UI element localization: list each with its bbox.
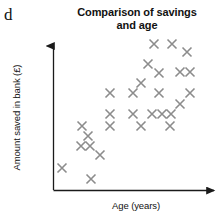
data-point [155,69,164,78]
data-point [58,164,67,173]
figure-container: d Comparison of savings and age Amount s… [0,0,223,217]
data-point [106,122,115,131]
data-point-group [58,40,195,184]
data-point [96,151,105,160]
data-point [176,68,185,77]
x-axis-label: Age (years) [53,200,219,211]
data-point [87,175,96,184]
data-point [158,110,167,119]
data-point [77,142,86,151]
data-point [148,110,157,119]
data-point [78,122,87,131]
data-point [155,89,164,98]
data-point [144,60,153,69]
data-point [84,132,93,141]
data-point [129,89,138,98]
data-point [137,79,146,88]
data-point [186,89,195,98]
scatter-plot [0,0,223,217]
data-point [167,110,176,119]
data-point [137,122,146,131]
data-point [186,68,195,77]
data-point [150,40,159,49]
data-point [106,110,115,119]
data-point [166,122,175,131]
data-point [86,142,95,151]
data-point [168,40,177,49]
data-point [183,48,192,57]
data-point [129,110,138,119]
data-point [176,100,185,109]
y-axis-label: Amount saved in bank (£) [11,48,22,188]
data-point [106,89,115,98]
